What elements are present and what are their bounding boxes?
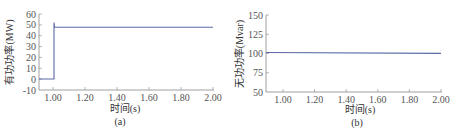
panel-b: 150 125 100 75 50 1.00 1.20 1.40 1.60 1.… <box>233 10 450 130</box>
x-ticks-b: 1.00 1.20 1.40 1.60 1.80 2.00 <box>274 89 450 105</box>
x-tick-label: 1.20 <box>306 94 324 105</box>
x-tick-label: 1.60 <box>140 92 158 103</box>
series-line-active-power <box>39 23 213 80</box>
x-tick-label: 1.00 <box>274 94 292 105</box>
y-tick-label: 30 <box>26 41 36 52</box>
y-tick-label: 125 <box>248 29 263 40</box>
x-tick-label: 1.80 <box>172 92 190 103</box>
y-tick-label: 50 <box>253 87 263 98</box>
y-tick-label: 60 <box>26 9 36 20</box>
y-tick-label: 40 <box>26 30 36 41</box>
x-tick-label: 2.00 <box>432 94 450 105</box>
y-tick-label: -10 <box>23 85 36 96</box>
caption-a: (a) <box>114 116 125 128</box>
y-tick-label: 100 <box>248 48 263 59</box>
y-axis-label-a: 有功功率(MW) <box>3 20 16 85</box>
x-tick-label: 1.20 <box>76 92 94 103</box>
y-tick-label: 0 <box>31 74 36 85</box>
x-ticks-a: 1.00 1.20 1.40 1.60 1.80 2.00 <box>44 87 222 103</box>
y-tick-label: 150 <box>248 10 263 21</box>
x-axis-label-b: 时间(s) <box>345 103 376 116</box>
series-line-reactive-power <box>266 53 441 54</box>
x-tick-label: 1.40 <box>108 92 126 103</box>
x-tick-label: 2.00 <box>204 92 222 103</box>
y-tick-label: 20 <box>26 52 36 63</box>
y-tick-label: 50 <box>26 19 36 30</box>
x-tick-label: 1.80 <box>401 94 419 105</box>
y-tick-label: 10 <box>26 63 36 74</box>
panel-a: 60 50 40 30 20 10 0 -10 1.00 1.20 1.40 1… <box>3 9 222 129</box>
x-axis-label-a: 时间(s) <box>110 102 141 115</box>
y-tick-label: 75 <box>253 67 263 78</box>
caption-b: (b) <box>351 117 363 129</box>
x-tick-label: 1.00 <box>44 92 62 103</box>
y-axis-label-b: 无功功率(Mvar) <box>233 20 246 88</box>
figure: 60 50 40 30 20 10 0 -10 1.00 1.20 1.40 1… <box>0 0 460 139</box>
